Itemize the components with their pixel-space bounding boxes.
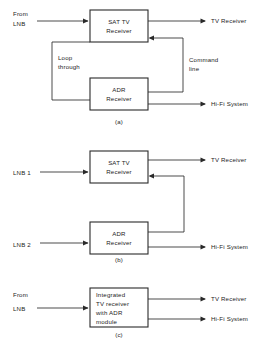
output-tv-receiver-a: TV Receiver <box>211 17 247 24</box>
block-integrated-receiver-c-line2: TV receiver <box>96 300 129 307</box>
diagram-a: SAT TV Receiver ADR Receiver From LNB TV… <box>13 10 248 125</box>
arrowhead-adr-to-hifi-a <box>201 102 207 107</box>
arrowhead-integrated-to-hifi-c <box>201 317 207 322</box>
diagram-c: Integrated TV receiver with ADR module F… <box>13 288 248 338</box>
output-hifi-system-b: Hi-Fi System <box>211 243 248 250</box>
arrowhead-command-line-a <box>149 36 155 41</box>
arrowhead-adr-to-hifi-b <box>201 245 207 250</box>
wire-label-command-line-a-line2: line <box>189 65 200 72</box>
block-integrated-receiver-c-line3: with ADR <box>95 309 123 316</box>
output-tv-receiver-c: TV Receiver <box>211 295 247 302</box>
arrowhead-sat-tv-to-tv-receiver-b <box>201 158 207 163</box>
block-diagram-figure: SAT TV Receiver ADR Receiver From LNB TV… <box>0 0 264 350</box>
block-integrated-receiver-c-line4: module <box>96 318 117 325</box>
diagram-canvas: SAT TV Receiver ADR Receiver From LNB TV… <box>0 0 264 350</box>
block-adr-receiver-a-line1: ADR <box>112 86 126 93</box>
output-tv-receiver-b: TV Receiver <box>211 156 247 163</box>
input-from-lnb-a-line1: From <box>13 10 28 17</box>
arrowhead-sat-tv-to-tv-receiver-a <box>201 19 207 24</box>
input-from-lnb-c-line2: LNB <box>13 305 25 312</box>
block-adr-receiver-b <box>90 222 148 254</box>
arrowhead-lnb-to-integrated-c <box>83 306 89 311</box>
block-sat-tv-receiver-a <box>90 10 148 42</box>
block-sat-tv-receiver-a-line2: Receiver <box>106 27 132 34</box>
arrowhead-lnb-to-sat-tv-a <box>83 19 89 24</box>
block-sat-tv-receiver-b-line1: SAT TV <box>108 159 130 166</box>
caption-diagram-a: (a) <box>115 118 123 125</box>
arrowhead-integrated-to-tv-receiver-c <box>201 297 207 302</box>
diagram-b: SAT TV Receiver ADR Receiver LNB 1 LNB 2… <box>13 151 248 263</box>
caption-diagram-b: (b) <box>115 256 123 263</box>
output-hifi-system-c: Hi-Fi System <box>211 315 248 322</box>
arrowhead-lnb1-to-sat-tv-b <box>83 170 89 175</box>
wire-label-loop-through-a-line1: Loop <box>58 54 73 61</box>
arrowhead-command-line-b <box>149 174 155 179</box>
block-sat-tv-receiver-a-line1: SAT TV <box>108 18 130 25</box>
block-sat-tv-receiver-b <box>90 151 148 183</box>
block-adr-receiver-a <box>90 78 148 110</box>
input-lnb-1-b: LNB 1 <box>13 169 31 176</box>
caption-diagram-c: (c) <box>115 331 123 338</box>
block-adr-receiver-b-line2: Receiver <box>106 239 132 246</box>
wire-label-loop-through-a-line2: through <box>58 63 80 70</box>
input-from-lnb-a-line2: LNB <box>13 20 25 27</box>
output-hifi-system-a: Hi-Fi System <box>211 100 248 107</box>
block-adr-receiver-b-line1: ADR <box>112 230 126 237</box>
input-from-lnb-c-line1: From <box>13 291 28 298</box>
block-integrated-receiver-c-line1: Integrated <box>96 291 125 298</box>
block-adr-receiver-a-line2: Receiver <box>106 95 132 102</box>
block-sat-tv-receiver-b-line2: Receiver <box>106 168 132 175</box>
input-lnb-2-b: LNB 2 <box>13 241 31 248</box>
wire-label-command-line-a-line1: Command <box>189 56 218 63</box>
arrowhead-lnb2-to-adr-b <box>83 241 89 246</box>
